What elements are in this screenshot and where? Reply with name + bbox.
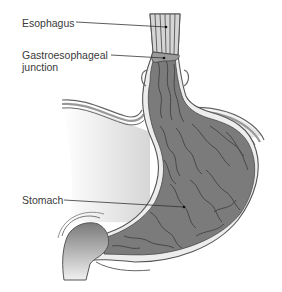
label-esophagus: Esophagus	[22, 17, 75, 29]
label-ge-junction-line2: junction	[22, 61, 58, 73]
stomach-diagram: Esophagus Gastroesophageal junction Stom…	[0, 0, 282, 292]
stomach-illustration	[0, 0, 282, 292]
label-stomach: Stomach	[22, 194, 63, 206]
label-ge-junction-line1: Gastroesophageal	[22, 49, 108, 61]
